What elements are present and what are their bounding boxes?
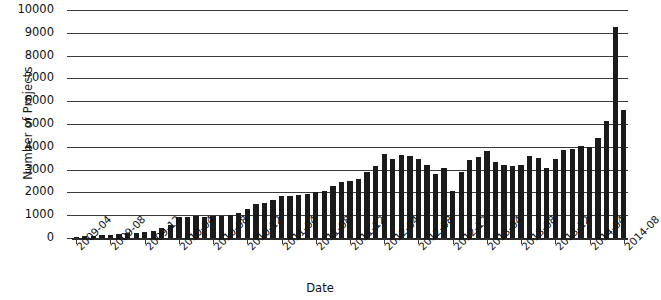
bar xyxy=(459,172,464,238)
y-axis-tick-label: 5000 xyxy=(0,118,54,130)
y-axis-tick-label: 10000 xyxy=(0,4,54,16)
y-axis-tick-label: 4000 xyxy=(0,141,54,153)
bar xyxy=(450,191,455,238)
y-axis-tick-label: 1000 xyxy=(0,209,54,221)
y-axis-tick-label: 6000 xyxy=(0,95,54,107)
y-axis-tick-label: 9000 xyxy=(0,27,54,39)
bar xyxy=(561,150,566,238)
bar xyxy=(613,27,618,238)
bar xyxy=(527,156,532,238)
bar xyxy=(356,179,361,238)
y-axis-tick-label: 8000 xyxy=(0,50,54,62)
bar xyxy=(518,165,523,238)
bar xyxy=(390,159,395,238)
bar xyxy=(493,162,498,238)
x-axis-title: Date xyxy=(0,281,640,295)
bar-series xyxy=(72,10,628,238)
bar xyxy=(604,121,609,238)
bar xyxy=(424,165,429,238)
y-axis-tick-label: 0 xyxy=(0,232,54,244)
y-axis-tick-label: 3000 xyxy=(0,164,54,176)
bar xyxy=(347,181,352,238)
y-axis-tick-label: 7000 xyxy=(0,72,54,84)
y-axis-tick-label: 2000 xyxy=(0,186,54,198)
plot-area: 0100020003000400050006000700080009000100… xyxy=(72,10,628,238)
bar xyxy=(595,138,600,238)
